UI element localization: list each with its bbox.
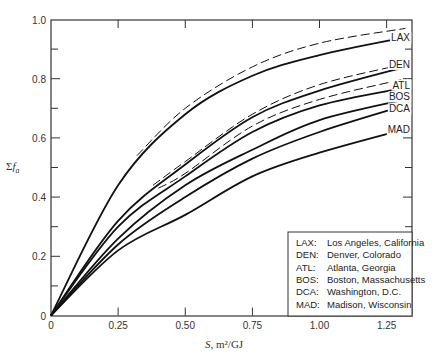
x-tick-label: 0.50 bbox=[176, 320, 196, 331]
legend-code: LAX: bbox=[296, 237, 317, 248]
y-tick-label: 0 bbox=[40, 311, 46, 322]
x-tick-label: 0.75 bbox=[243, 320, 263, 331]
x-axis-label: S, m²/GJ bbox=[205, 338, 244, 350]
x-tick-label: 0 bbox=[48, 320, 54, 331]
curve-label-mad: MAD bbox=[388, 124, 410, 135]
legend-code: BOS: bbox=[296, 274, 319, 285]
legend-city: Los Angeles, California bbox=[327, 237, 425, 248]
y-tick-label: 0.8 bbox=[32, 74, 46, 85]
legend-code: DEN: bbox=[296, 249, 319, 260]
curve-label-bos: BOS bbox=[389, 91, 410, 102]
legend-city: Washington, D.C. bbox=[327, 286, 401, 297]
legend: LAX:Los Angeles, CaliforniaDEN:Denver, C… bbox=[288, 232, 425, 316]
curve-label-den: DEN bbox=[389, 59, 410, 70]
curve-lax-dashed bbox=[137, 28, 406, 155]
curve-end-labels: LAXDENATLBOSDCAMAD bbox=[387, 32, 412, 135]
y-tick-label: 0.2 bbox=[32, 251, 46, 262]
legend-city: Boston, Massachusetts bbox=[327, 274, 425, 285]
y-tick-label: 0.4 bbox=[32, 192, 46, 203]
y-tick-label: 1.0 bbox=[32, 15, 46, 26]
x-tick-label: 1.25 bbox=[377, 320, 397, 331]
curve-label-dca: DCA bbox=[389, 103, 410, 114]
y-tick-label: 0.6 bbox=[32, 133, 46, 144]
curve-den-dashed bbox=[153, 64, 405, 185]
legend-city: Madison, Wisconsin bbox=[327, 299, 411, 310]
x-tick-label: 1.00 bbox=[310, 320, 330, 331]
legend-code: DCA: bbox=[296, 286, 319, 297]
legend-city: Denver, Colorado bbox=[327, 249, 401, 260]
curve-label-atl: ATL bbox=[392, 80, 410, 91]
legend-city: Atlanta, Georgia bbox=[327, 262, 396, 273]
legend-code: MAD: bbox=[296, 299, 320, 310]
chart-figure: 00.250.500.751.001.2500.20.40.60.81.0 LA… bbox=[0, 0, 447, 360]
x-tick-label: 0.25 bbox=[108, 320, 128, 331]
legend-code: ATL: bbox=[296, 262, 315, 273]
curve-label-lax: LAX bbox=[391, 32, 410, 43]
y-axis-label: Σfa bbox=[6, 160, 19, 175]
